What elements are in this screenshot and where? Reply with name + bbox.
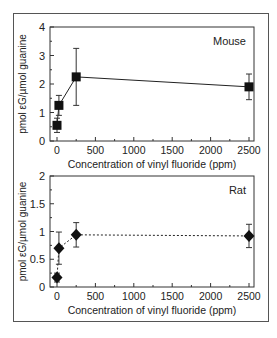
x-tick-label: 1000 (122, 290, 146, 302)
data-point-diamond (53, 242, 64, 254)
species-label: Rat (229, 184, 246, 196)
x-tick-label: 500 (87, 144, 105, 156)
y-axis-label: pmol εG/µmol guanine (17, 181, 28, 281)
x-tick-label: 2500 (237, 144, 261, 156)
data-point-diamond (71, 229, 82, 241)
x-tick-label: 2500 (237, 290, 261, 302)
x-tick-label: 0 (54, 144, 60, 156)
data-point-square (53, 121, 62, 130)
x-tick-label: 0 (54, 290, 60, 302)
series-line (57, 77, 249, 125)
mouse-chart: 0123405001000150020002500Concentration o… (17, 21, 261, 170)
series-line (57, 235, 249, 278)
chart-canvas: 0123405001000150020002500Concentration o… (0, 0, 277, 338)
y-axis-label: pmol εG/µmol guanine (17, 34, 28, 134)
data-point-square (54, 101, 63, 110)
y-tick-label: 4 (39, 21, 45, 33)
y-tick-label: 3 (39, 50, 45, 62)
y-tick-label: 0 (39, 135, 45, 147)
data-point-diamond (244, 230, 255, 242)
data-point-diamond (52, 272, 63, 284)
y-tick-label: 0 (39, 281, 45, 293)
x-tick-label: 2000 (199, 144, 223, 156)
rat-chart: 00.511.5205001000150020002500Concentrati… (17, 170, 261, 316)
y-tick-label: 0.5 (30, 253, 45, 265)
x-axis-label: Concentration of vinyl fluoride (ppm) (68, 304, 237, 316)
y-tick-label: 1.5 (30, 198, 45, 210)
x-axis-label: Concentration of vinyl fluoride (ppm) (68, 158, 237, 170)
x-tick-label: 2000 (199, 290, 223, 302)
species-label: Mouse (213, 35, 246, 47)
y-tick-label: 1 (39, 107, 45, 119)
x-tick-label: 1500 (161, 290, 185, 302)
data-point-square (72, 72, 81, 81)
data-point-square (245, 82, 254, 91)
x-tick-label: 500 (87, 290, 105, 302)
x-tick-label: 1500 (161, 144, 185, 156)
y-tick-label: 2 (39, 78, 45, 90)
x-tick-label: 1000 (122, 144, 146, 156)
y-tick-label: 2 (39, 170, 45, 182)
y-tick-label: 1 (39, 226, 45, 238)
plot-area (50, 176, 254, 287)
